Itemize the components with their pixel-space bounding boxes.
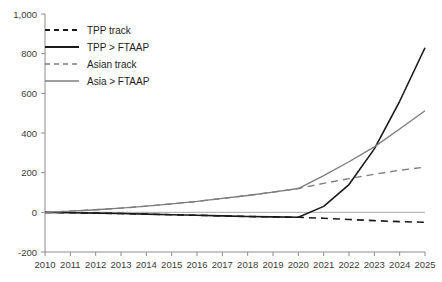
y-tick-label: 400	[21, 128, 37, 139]
series-group	[45, 48, 425, 223]
x-tick-label: 2023	[364, 259, 385, 270]
legend-label-1: TPP > FTAAP	[87, 42, 149, 53]
x-tick-label: 2018	[237, 259, 258, 270]
x-tick-label: 2015	[161, 259, 182, 270]
y-tick-label: 1,000	[13, 9, 37, 20]
y-axis-tick-group: 1,0008006004002000-200	[13, 9, 45, 258]
x-tick-label: 2024	[389, 259, 410, 270]
series-line-asian-track	[45, 167, 425, 212]
chart-legend: TPP trackTPP > FTAAPAsian trackAsia > FT…	[45, 25, 150, 87]
y-tick-label: 600	[21, 88, 37, 99]
x-tick-label: 2017	[212, 259, 233, 270]
chart-container: 1,0008006004002000-200 20102011201220132…	[0, 0, 442, 282]
x-tick-label: 2016	[186, 259, 207, 270]
series-line-tpp-ftaap	[45, 48, 425, 218]
x-tick-label: 2021	[313, 259, 334, 270]
x-tick-label: 2025	[414, 259, 435, 270]
x-tick-label: 2022	[338, 259, 359, 270]
legend-label-0: TPP track	[87, 25, 132, 36]
x-axis-tick-group: 2010201120122013201420152016201720182019…	[34, 252, 435, 270]
legend-label-2: Asian track	[87, 59, 137, 70]
x-tick-label: 2013	[110, 259, 131, 270]
x-tick-label: 2012	[85, 259, 106, 270]
x-tick-label: 2020	[288, 259, 309, 270]
y-tick-label: 0	[32, 207, 37, 218]
y-tick-label: -200	[18, 247, 37, 258]
x-tick-label: 2010	[34, 259, 55, 270]
y-tick-label: 200	[21, 167, 37, 178]
y-tick-label: 800	[21, 48, 37, 59]
x-tick-label: 2014	[136, 259, 157, 270]
series-line-asia-ftaap	[45, 111, 425, 213]
x-tick-label: 2011	[60, 259, 80, 270]
line-chart: 1,0008006004002000-200 20102011201220132…	[0, 0, 442, 282]
legend-label-3: Asia > FTAAP	[87, 76, 150, 87]
x-tick-label: 2019	[262, 259, 283, 270]
